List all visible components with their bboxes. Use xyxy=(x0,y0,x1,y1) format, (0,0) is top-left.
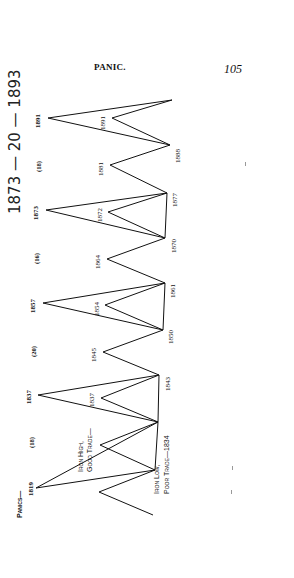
label-panics: Panics— xyxy=(16,491,24,518)
label-panic-1873: 1873 xyxy=(32,206,40,220)
label-panic-1857: 1857 xyxy=(29,299,37,313)
label-inner-1891: 1891 xyxy=(99,116,107,130)
scan-speck xyxy=(231,490,232,494)
label-iron-low: Iron Low, xyxy=(153,465,161,494)
label-panic-1819: 1819 xyxy=(27,482,35,496)
label-trough-1850: 1850 xyxy=(167,330,175,344)
label-poor-trade: Poor Trade—1834 xyxy=(163,435,171,494)
label-trough-1888: 1888 xyxy=(174,149,182,163)
interval-label: (16) xyxy=(33,253,40,264)
interval-label: (18) xyxy=(28,437,35,448)
label-trough-1843: 1843 xyxy=(164,377,172,391)
label-good-trade: Good Trade— xyxy=(86,428,94,472)
cycle-diagram xyxy=(0,0,294,578)
label-trough-1877: 1877 xyxy=(171,193,179,207)
label-panic-1837: 1837 xyxy=(25,390,33,404)
label-inner-1872: 1872 xyxy=(96,208,104,222)
label-trough-1870: 1870 xyxy=(170,239,178,253)
interval-label: (18) xyxy=(35,161,42,172)
label-inner-1854: 1854 xyxy=(93,302,101,316)
scan-speck xyxy=(245,162,246,166)
label-inner-1864: 1864 xyxy=(94,255,102,269)
scan-speck xyxy=(232,466,233,470)
label-inner-1837: 1837 xyxy=(88,393,96,407)
interval-label: (20) xyxy=(30,346,37,357)
label-panic-1891: 1891 xyxy=(34,114,42,128)
label-inner-1881: 1881 xyxy=(97,162,105,176)
label-inner-1845: 1845 xyxy=(90,348,98,362)
label-iron-high: Iron High, xyxy=(77,441,85,472)
label-trough-1861: 1861 xyxy=(169,284,177,298)
